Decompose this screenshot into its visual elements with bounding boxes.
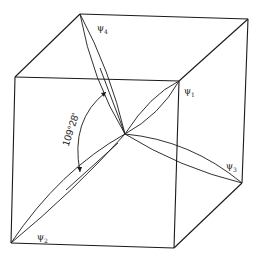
label-psi2: ψ2 xyxy=(37,233,48,244)
label-psi1: ψ1 xyxy=(184,87,195,98)
cube-drawing xyxy=(0,0,256,259)
label-psi4: ψ4 xyxy=(97,24,108,35)
cube-orbital-diagram: ψ4 ψ1 ψ3 ψ2 109°28' xyxy=(0,0,256,259)
label-psi3: ψ3 xyxy=(226,162,237,173)
angle-arc xyxy=(77,92,106,172)
orbital-lobes xyxy=(11,14,242,243)
